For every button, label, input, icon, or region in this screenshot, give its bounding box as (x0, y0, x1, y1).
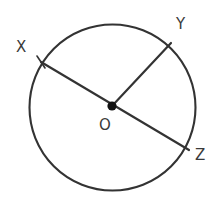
point-label-z: Z (195, 148, 206, 163)
center-point-dot (107, 101, 116, 110)
point-label-y: Y (176, 17, 185, 32)
radius-segment-oy (112, 43, 171, 106)
circle-diagram: X Y Z O (0, 0, 221, 201)
point-label-x: X (16, 40, 27, 55)
diagram-canvas (0, 0, 221, 201)
center-label-o: O (99, 118, 111, 133)
